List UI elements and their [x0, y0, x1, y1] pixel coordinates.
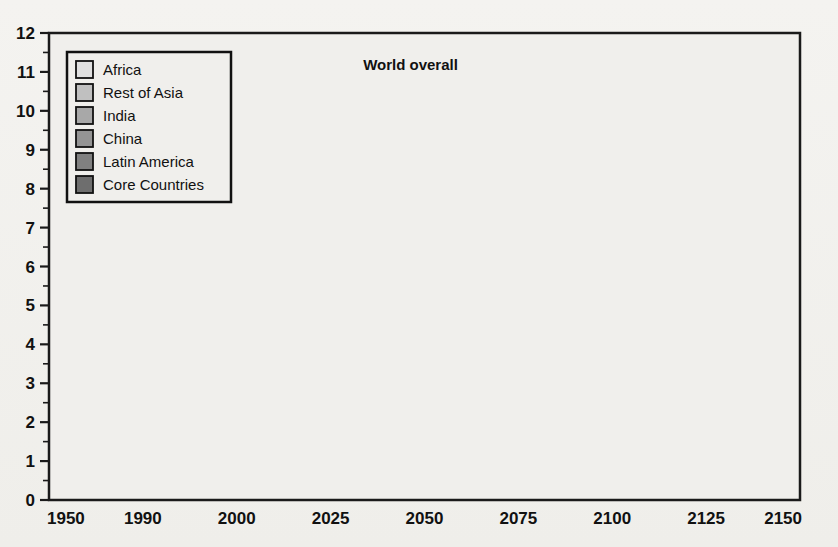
legend-label: Rest of Asia — [103, 84, 184, 101]
x-tick-label: 2125 — [687, 509, 725, 528]
legend-label: Africa — [103, 61, 142, 78]
legend-swatch — [76, 130, 93, 147]
y-tick-label: 3 — [26, 374, 35, 393]
y-tick-label: 9 — [26, 141, 35, 160]
chart-legend: AfricaRest of AsiaIndiaChinaLatin Americ… — [67, 52, 231, 202]
legend-item-africa[interactable]: Africa — [76, 61, 142, 78]
population-projection-area-chart: 195019902000202520502075210021252150 012… — [0, 0, 838, 547]
legend-swatch — [76, 153, 93, 170]
x-tick-label: 2075 — [499, 509, 537, 528]
y-tick-label: 2 — [26, 413, 35, 432]
y-tick-label: 10 — [16, 102, 35, 121]
legend-swatch — [76, 84, 93, 101]
legend-item-china[interactable]: China — [76, 130, 143, 147]
legend-label: Latin America — [103, 153, 195, 170]
x-axis-tick-labels: 195019902000202520502075210021252150 — [47, 509, 802, 528]
y-tick-label: 11 — [17, 63, 35, 82]
axis-ticks — [40, 33, 49, 500]
x-tick-label: 2150 — [764, 509, 802, 528]
x-tick-label: 2100 — [593, 509, 631, 528]
legend-item-latin-america[interactable]: Latin America — [76, 153, 195, 170]
legend-label: India — [103, 107, 136, 124]
y-tick-label: 0 — [26, 491, 35, 510]
y-tick-label: 5 — [26, 296, 35, 315]
x-tick-label: 2025 — [312, 509, 350, 528]
x-tick-label: 1950 — [47, 509, 85, 528]
legend-item-rest-of-asia[interactable]: Rest of Asia — [76, 84, 184, 101]
y-tick-label: 4 — [26, 335, 36, 354]
legend-swatch — [76, 107, 93, 124]
legend-swatch — [76, 61, 93, 78]
legend-label: Core Countries — [103, 176, 204, 193]
y-axis-tick-labels: 0123456789101112 — [16, 24, 35, 510]
y-tick-label: 8 — [26, 180, 35, 199]
legend-item-india[interactable]: India — [76, 107, 136, 124]
x-tick-label: 1990 — [124, 509, 162, 528]
x-tick-label: 2000 — [218, 509, 256, 528]
legend-swatch — [76, 176, 93, 193]
x-tick-label: 2050 — [406, 509, 444, 528]
legend-label: China — [103, 130, 143, 147]
y-tick-label: 6 — [26, 258, 35, 277]
chart-canvas: 195019902000202520502075210021252150 012… — [0, 0, 838, 547]
y-tick-label: 12 — [16, 24, 35, 43]
annotation-world-overall: World overall — [363, 56, 458, 73]
y-tick-label: 7 — [26, 219, 35, 238]
y-tick-label: 1 — [26, 452, 35, 471]
chart-annotations: World overall — [363, 56, 458, 73]
